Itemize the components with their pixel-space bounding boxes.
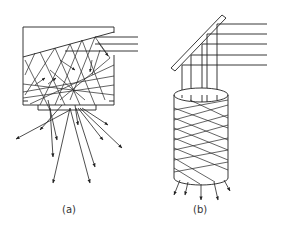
box-outline xyxy=(23,27,114,110)
optics-diagram xyxy=(0,0,285,234)
reflected-rays-b xyxy=(182,24,217,98)
incident-rays xyxy=(65,37,138,51)
panel-b-label: (b) xyxy=(193,204,207,215)
exit-rays xyxy=(16,100,122,183)
panel-b xyxy=(171,15,267,200)
scattered-rays xyxy=(23,37,114,110)
internal-rays-b xyxy=(174,100,228,184)
mirror xyxy=(171,15,226,71)
panel-a-label: (a) xyxy=(62,204,76,215)
panel-a xyxy=(16,27,138,183)
